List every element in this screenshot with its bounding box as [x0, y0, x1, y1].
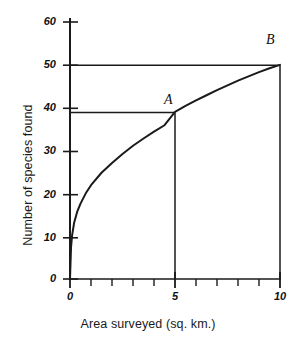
y-tick-label-0: 0 — [30, 272, 56, 284]
y-tick-label-40: 40 — [30, 101, 56, 113]
x-axis-title: Area surveyed (sq. km.) — [0, 317, 296, 331]
y-tick-label-60: 60 — [30, 15, 56, 27]
chart-background — [0, 0, 296, 347]
x-tick-label-10: 10 — [267, 290, 293, 302]
y-axis-title: Number of species found — [21, 65, 35, 285]
y-tick-label-30: 30 — [30, 144, 56, 156]
y-tick-label-20: 20 — [30, 188, 56, 200]
x-tick-label-0: 0 — [57, 290, 83, 302]
y-tick-label-10: 10 — [30, 231, 56, 243]
point-label-a: A — [164, 92, 173, 108]
x-tick-label-5: 5 — [162, 290, 188, 302]
species-area-chart — [0, 0, 296, 347]
y-tick-label-50: 50 — [30, 58, 56, 70]
point-label-b: B — [266, 32, 275, 48]
